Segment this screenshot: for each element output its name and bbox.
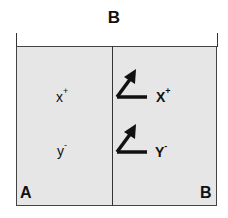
right-compartment-label: B — [200, 184, 212, 202]
right-ion-x: X+ — [156, 88, 171, 105]
diagram-title: B — [0, 8, 228, 28]
ion-symbol: x — [56, 89, 63, 105]
container-left-wall-extension — [16, 33, 17, 47]
diagonal-arrow-icon — [114, 122, 150, 156]
left-ion-x: x+ — [56, 88, 68, 105]
ion-symbol: y — [57, 143, 64, 159]
ion-symbol: X — [156, 89, 165, 105]
compartment-divider — [112, 46, 113, 206]
left-compartment-label: A — [20, 184, 32, 202]
left-ion-y: y- — [57, 142, 67, 159]
ion-charge: + — [165, 86, 170, 96]
ion-charge: - — [64, 140, 67, 150]
ion-charge: + — [63, 86, 68, 96]
container-right-wall-extension — [217, 33, 218, 47]
ion-symbol: Y — [155, 144, 164, 160]
diagonal-arrow-icon — [114, 67, 150, 101]
right-ion-y: Y- — [155, 143, 167, 160]
ion-charge: - — [164, 141, 167, 151]
